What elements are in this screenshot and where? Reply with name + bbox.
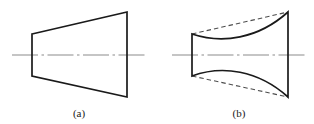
- technical-drawing-canvas: (a) (b): [0, 0, 314, 124]
- panel-a: (a): [12, 12, 147, 120]
- panel-b: (b): [172, 12, 308, 120]
- figure-container: (a) (b): [0, 0, 314, 124]
- panel-caption-b: (b): [233, 107, 246, 120]
- panel-caption-a: (a): [73, 107, 86, 120]
